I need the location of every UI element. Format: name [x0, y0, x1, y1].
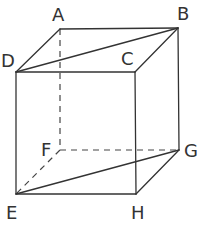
vertex-label-c: C — [121, 50, 134, 68]
vertex-label-d: D — [1, 52, 15, 70]
vertex-label-a: A — [52, 6, 64, 24]
edge-AB — [60, 28, 178, 29]
edge-HG — [136, 150, 179, 194]
diagonal-DB — [16, 28, 178, 72]
cube-drawing — [0, 0, 210, 228]
vertex-label-f: F — [41, 141, 51, 159]
cube-diagram: A B C D E F G H — [0, 0, 210, 228]
vertex-label-e: E — [6, 204, 17, 222]
vertex-label-b: B — [177, 5, 189, 23]
edge-CH — [135, 72, 136, 194]
vertex-label-h: H — [131, 204, 145, 222]
edge-BC — [135, 28, 178, 72]
vertex-label-g: G — [184, 142, 198, 160]
edge-BG — [178, 28, 179, 150]
